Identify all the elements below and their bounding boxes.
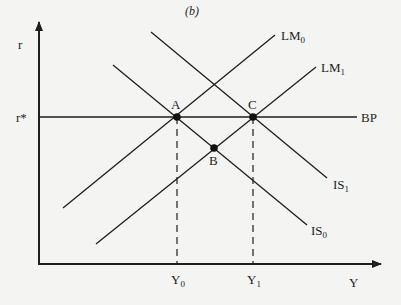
lm0-curve <box>63 35 275 208</box>
point-a <box>173 113 181 121</box>
bp-label: BP <box>361 110 377 125</box>
lm0-label: LM0 <box>281 28 306 45</box>
point-c-label: C <box>248 97 257 112</box>
equilibrium-points <box>173 113 257 152</box>
point-c <box>249 113 257 121</box>
y-axis-label: r <box>18 37 23 52</box>
lm1-curve <box>96 67 316 244</box>
point-a-label: A <box>171 97 181 112</box>
x-axis-label: Y <box>349 275 359 290</box>
is1-label: IS1 <box>333 177 349 194</box>
curves <box>39 32 357 244</box>
lm1-label: LM1 <box>321 60 345 77</box>
point-b <box>210 144 218 152</box>
y0-label: Y0 <box>171 272 185 289</box>
is0-curve <box>113 65 307 225</box>
is-lm-bp-diagram: (b) r Y A B C LM0 LM1 IS0 IS1 BP r* Y0 Y… <box>0 0 401 305</box>
panel-label: (b) <box>185 4 199 18</box>
y1-label: Y1 <box>247 272 261 289</box>
r-star-label: r* <box>16 110 27 125</box>
point-b-label: B <box>209 153 218 168</box>
is0-label: IS0 <box>311 223 328 240</box>
